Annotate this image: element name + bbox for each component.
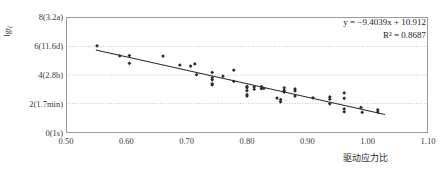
y-axis-tick-label: 4(2.8h) [38, 71, 63, 80]
x-axis-tick-label: 1.10 [421, 137, 436, 146]
y-axis-tick-label: 2(1.7min) [29, 100, 63, 109]
x-axis-tick-label: 0.90 [300, 137, 315, 146]
x-axis-tick-labels: 0.500.600.700.800.901.001.10 [0, 137, 446, 151]
x-axis-title: 驱动应力比 [343, 151, 388, 164]
plot-area [66, 17, 428, 133]
data-point [189, 64, 193, 68]
data-point [195, 73, 199, 77]
data-point [221, 74, 225, 78]
data-point [128, 61, 132, 65]
x-axis-tick-label: 0.70 [179, 137, 194, 146]
data-point [193, 62, 197, 66]
x-axis-tick-label: 1.00 [360, 137, 375, 146]
data-point [210, 78, 214, 82]
data-point [210, 71, 214, 75]
data-point [178, 63, 182, 67]
data-point [245, 89, 249, 93]
data-point [342, 110, 346, 114]
y-axis-tick-label: 8(3.2a) [39, 13, 63, 22]
data-point [328, 97, 332, 101]
data-point [279, 100, 283, 104]
regression-line [96, 50, 385, 115]
data-point [275, 96, 279, 100]
y-axis-tick-label: 6(11.6d) [34, 42, 63, 51]
data-point [293, 89, 297, 93]
plot-canvas [67, 18, 427, 132]
chart-figure: lgtf 0(1s)2(1.7min)4(2.8h)6(11.6d)8(3.2a… [0, 0, 446, 175]
data-point [360, 110, 364, 114]
trendline-segment [96, 50, 385, 115]
data-point [252, 87, 256, 91]
x-axis-tick-label: 0.60 [119, 137, 134, 146]
x-axis-tick-label: 0.50 [59, 137, 74, 146]
data-point [342, 97, 346, 101]
data-point [161, 54, 165, 58]
data-point [232, 68, 236, 72]
data-point [95, 44, 99, 48]
data-point [342, 91, 346, 95]
x-axis-tick-label: 0.80 [240, 137, 255, 146]
